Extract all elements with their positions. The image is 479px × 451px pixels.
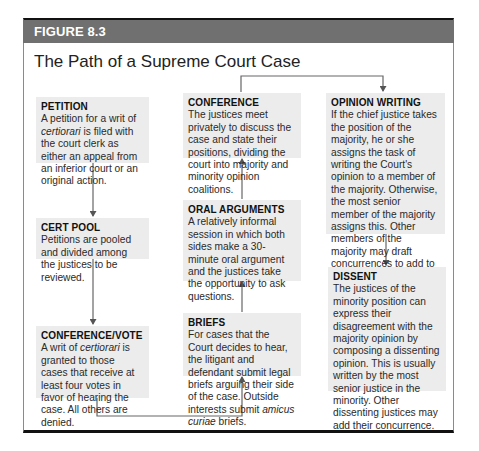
node-conference: CONFERENCE The justices meet privately t… — [183, 93, 301, 158]
node-text: A writ of certiorari is granted to those… — [41, 342, 134, 427]
node-text: A petition for a writ of certiorari is f… — [41, 113, 138, 186]
node-petition: PETITION A petition for a writ of certio… — [36, 97, 149, 163]
node-briefs: BRIEFS For cases that the Court decides … — [183, 313, 301, 376]
node-text: A relatively informal session in which b… — [188, 216, 285, 301]
node-text: If the chief justice takes the position … — [331, 109, 440, 281]
node-opinion-writing: OPINION WRITING If the chief justice tak… — [326, 93, 445, 234]
node-heading: DISSENT — [333, 271, 441, 283]
node-dissent: DISSENT The justices of the minority pos… — [328, 267, 446, 391]
node-heading: BRIEFS — [188, 317, 296, 329]
node-heading: CONFERENCE — [188, 97, 296, 109]
node-conference-vote: CONFERENCE/VOTE A writ of certiorari is … — [36, 326, 149, 398]
node-text: Petitions are pooled and divided among t… — [41, 234, 131, 282]
arrow-conference-to-opinion-writing — [241, 76, 383, 92]
node-oral-arguments: ORAL ARGUMENTS A relatively informal ses… — [183, 200, 301, 281]
node-heading: CONFERENCE/VOTE — [41, 330, 144, 342]
node-heading: PETITION — [41, 101, 144, 113]
node-text: For cases that the Court decides to hear… — [188, 329, 294, 427]
node-heading: OPINION WRITING — [331, 97, 440, 109]
node-heading: CERT POOL — [41, 222, 144, 234]
node-cert-pool: CERT POOL Petitions are pooled and divid… — [36, 218, 149, 259]
node-text: The justices meet privately to discuss t… — [188, 109, 291, 194]
node-text: The justices of the minority position ca… — [333, 283, 439, 430]
node-heading: ORAL ARGUMENTS — [188, 204, 296, 216]
